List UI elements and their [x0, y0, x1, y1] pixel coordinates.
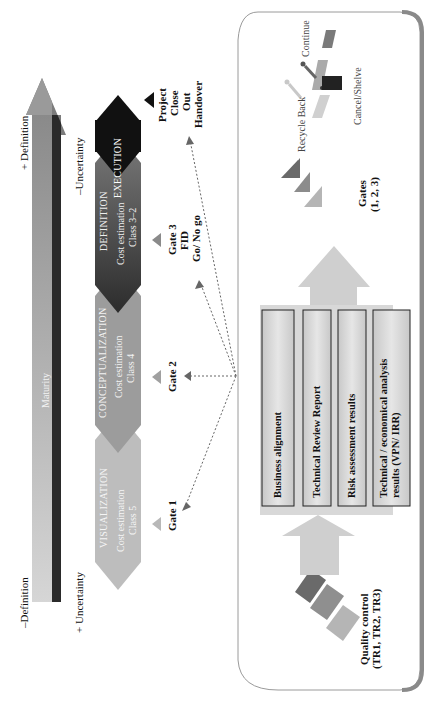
dashed-connectors [186, 140, 236, 505]
recycle-back-label: Recycle Back [296, 97, 307, 152]
gate-3-fid: FID [178, 231, 190, 250]
gate-1-label: Gate 1 [166, 500, 178, 531]
deliverable-technical-review: Technical Review Report [311, 386, 323, 498]
phase-definition-title: DEFINITION [98, 191, 109, 251]
gates-summary-label: Gates [356, 180, 368, 207]
phase-visualization-class: Class 5 [127, 506, 139, 535]
plus-uncertainty-label: + Uncertainty [73, 572, 85, 633]
phase-execution-title: EXECUTION [112, 138, 123, 198]
closeout-close: Close [168, 90, 180, 116]
gate-3-go-no-go: Go/ No go [190, 215, 202, 262]
closeout-project: Project [156, 88, 168, 122]
continue-label: Continue [300, 20, 311, 57]
deliverable-tech-econ-line2: results (VPN/ IRR) [390, 412, 402, 498]
maturity-label: Maturity [40, 373, 51, 408]
deliverable-business-alignment: Business alignment [272, 412, 284, 498]
minus-uncertainty-label: –Uncertainty [73, 138, 85, 195]
phase-visualization-title: VISUALIZATION [98, 468, 109, 548]
deliverable-tech-econ-line1: Technical / economical analysis [378, 359, 390, 498]
gates-summary-sub: (1, 2, 3) [368, 177, 380, 212]
gate-2-label: Gate 2 [166, 361, 178, 392]
maturity-arrow [26, 78, 66, 602]
closeout-out: Out [180, 93, 192, 111]
quality-control-sub: (TR1, TR2, TR3) [370, 589, 382, 669]
phase-definition-cost: Cost estimation [115, 203, 127, 266]
closeout-handover: Handover [192, 81, 204, 128]
gate-3-label: Gate 3 [166, 224, 178, 255]
cancel-shelve-label: Cancel/Shelve [352, 67, 363, 125]
connector-arrowheads [182, 136, 204, 511]
phase-definition-class: Class 3–2 [127, 208, 139, 247]
phase-conceptualization-cost: Cost estimation [113, 336, 125, 399]
plus-definition-label: + Definition [18, 116, 30, 170]
deliverable-risk-assessment: Risk assessment results [346, 394, 358, 498]
quality-control-label: Quality control [358, 593, 370, 665]
gate-markers [144, 92, 161, 531]
phase-conceptualization-title: CONCEPTUALIZATION [97, 307, 108, 418]
phase-visualization-cost: Cost estimation [115, 490, 127, 553]
minus-definition-label: –Definition [18, 577, 30, 628]
phase-conceptualization-class: Class 4 [125, 354, 137, 383]
